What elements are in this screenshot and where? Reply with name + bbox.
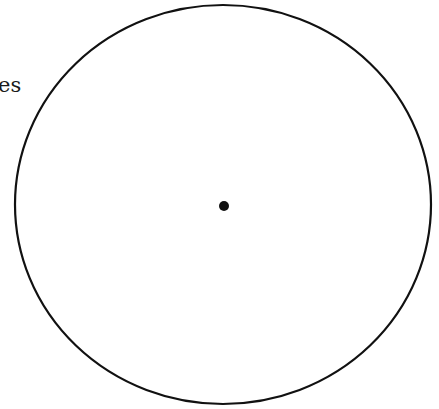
circle-diagram	[0, 0, 439, 409]
center-point	[219, 201, 229, 211]
